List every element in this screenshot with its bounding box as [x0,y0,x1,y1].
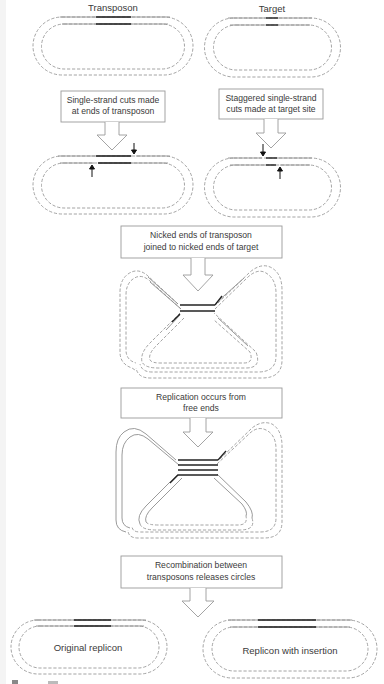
step-cuts-transposon: Single-strand cuts made at ends of trans… [61,91,165,150]
step-replication: Replication occurs from free ends [121,388,282,447]
down-arrow-icon [183,418,213,447]
svg-text:Single-strand cuts made: Single-strand cuts made [67,95,160,105]
step-join-nicked-ends: Nicked ends of transposon joined to nick… [121,226,282,291]
target-replicon: Target [205,3,341,77]
svg-text:joined to nicked ends of targe: joined to nicked ends of target [143,242,259,252]
nicked-target-replicon [205,144,341,217]
transposon-label: Transposon [88,2,138,13]
transposon-replicon: Transposon [33,2,193,75]
down-arrow-icon [183,258,213,291]
svg-text:Nicked ends of transposon: Nicked ends of transposon [150,230,252,240]
step-cuts-target: Staggered single-strand cuts made at tar… [219,89,323,148]
svg-text:free ends: free ends [183,403,219,413]
replicon-with-insertion: Replicon with insertion [203,620,377,678]
svg-text:transposons releases circles: transposons releases circles [147,572,255,582]
original-replicon-label: Original replicon [54,642,123,653]
caption-fragment [12,680,18,684]
svg-text:at ends of transposon: at ends of transposon [72,106,155,116]
original-replicon: Original replicon [11,620,167,674]
svg-text:cuts made at target site: cuts made at target site [226,104,316,114]
down-arrow-icon [256,119,286,148]
target-label: Target [259,3,286,14]
down-arrow-icon [182,588,214,617]
svg-text:Replication occurs from: Replication occurs from [156,392,246,402]
nicked-transposon-replicon [33,143,193,214]
svg-text:Recombination between: Recombination between [155,560,247,570]
down-arrow-icon [97,122,127,150]
step-recombination: Recombination between transposons releas… [121,556,282,617]
svg-text:Staggered single-strand: Staggered single-strand [225,93,316,103]
insertion-replicon-label: Replicon with insertion [242,645,337,656]
page-edge-shadow [0,0,6,684]
replicative-transposition-diagram: Transposon Target Single-strand cuts mad… [0,0,384,684]
